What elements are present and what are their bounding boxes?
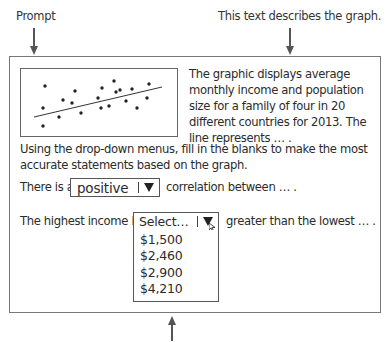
description-arrow-line [289,28,291,48]
q2-text-after: greater than the lowest … . [226,214,376,228]
scatter-point [57,115,60,118]
scatter-point [100,86,103,89]
graph-description: The graphic displays average monthly inc… [189,66,379,146]
bottom-arrow-line [171,323,173,341]
q1-text-before: There is a [20,180,73,194]
scatter-point [107,104,110,107]
scatter-point [96,96,99,99]
q2-option[interactable]: $1,500 [140,232,218,248]
q2-option[interactable]: $2,460 [140,248,218,264]
scatter-point [135,106,138,109]
scatter-point [73,89,76,92]
scatter-point [79,111,82,114]
scatter-point [124,99,127,102]
scatter-point [112,79,115,82]
trend-line [34,87,162,117]
scatter-point [70,101,73,104]
description-arrow-head-icon [286,46,294,55]
scatter-point [41,124,44,127]
q2-dropdown-caret-icon[interactable] [198,217,218,226]
scatter-point [145,96,148,99]
scatter-point [147,82,150,85]
prompt-annotation: Prompt [16,9,55,23]
q2-option[interactable]: $2,900 [140,265,218,281]
q1-dropdown[interactable]: positive [70,178,160,197]
scatter-points [41,79,150,127]
scatter-point [99,106,102,109]
q2-option[interactable]: $4,210 [140,281,218,297]
scatter-point [130,87,133,90]
q2-options-list: $1,500 $2,460 $2,900 $4,210 [133,230,219,302]
q1-text-after: correlation between … . [166,180,297,194]
instructions-text: Using the drop-down menus, fill in the b… [20,141,380,173]
scatter-point [43,84,46,87]
scatter-point [114,90,117,93]
scatter-point [61,98,64,101]
q2-dropdown[interactable]: Select… [133,212,219,231]
q2-placeholder: Select… [134,214,197,229]
scatter-point [41,106,44,109]
q2-text-before: The highest income is [20,214,140,228]
prompt-arrow-line [33,28,35,48]
prompt-arrow-head-icon [30,46,38,55]
description-annotation: This text describes the graph. [218,9,381,23]
scatter-point [118,88,121,91]
scatter-plot [21,69,176,135]
q1-dropdown-caret-icon[interactable] [139,183,159,192]
q1-selected-value: positive [71,180,138,196]
scatter-graph [20,68,178,137]
